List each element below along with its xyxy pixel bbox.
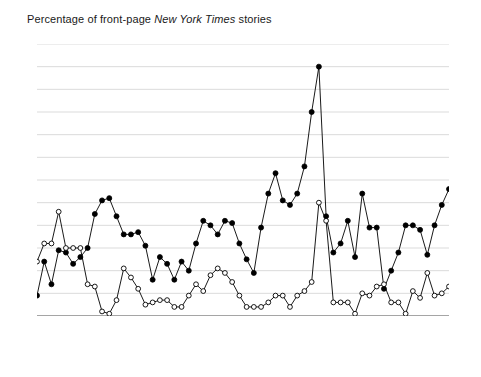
- data-point-president: [396, 250, 401, 255]
- data-point-president: [150, 277, 155, 282]
- plot-area: 0510152025303540455055601948195219561960…: [37, 44, 449, 316]
- data-point-congress: [251, 305, 256, 310]
- data-point-congress: [316, 200, 321, 205]
- data-point-president: [360, 191, 365, 196]
- data-point-congress: [42, 241, 47, 246]
- data-point-congress: [374, 284, 379, 289]
- data-point-president: [316, 64, 321, 69]
- data-point-president: [302, 164, 307, 169]
- data-point-congress: [353, 311, 358, 316]
- data-point-president: [222, 218, 227, 223]
- data-point-congress: [447, 284, 449, 289]
- data-point-president: [432, 223, 437, 228]
- data-point-congress: [64, 246, 69, 251]
- data-point-congress: [302, 289, 307, 294]
- data-point-congress: [186, 293, 191, 298]
- data-point-congress: [208, 273, 213, 278]
- data-point-congress: [309, 280, 314, 285]
- data-point-president: [49, 282, 54, 287]
- data-point-congress: [107, 311, 112, 316]
- series-line-president: [37, 67, 449, 296]
- data-point-congress: [288, 305, 293, 310]
- data-point-president: [194, 241, 199, 246]
- data-point-president: [418, 227, 423, 232]
- data-point-president: [266, 191, 271, 196]
- data-point-president: [201, 218, 206, 223]
- data-point-president: [215, 232, 220, 237]
- chart-title-italic: New York Times: [154, 13, 235, 25]
- data-point-congress: [143, 302, 148, 307]
- data-point-congress: [367, 293, 372, 298]
- data-point-congress: [150, 300, 155, 305]
- data-point-president: [287, 202, 292, 207]
- data-point-congress: [165, 298, 170, 303]
- data-point-president: [71, 261, 76, 266]
- chart-title-tail: stories: [235, 13, 271, 25]
- data-point-president: [295, 191, 300, 196]
- data-point-president: [353, 255, 358, 260]
- data-point-congress: [121, 266, 126, 271]
- data-point-president: [403, 223, 408, 228]
- data-point-congress: [280, 293, 285, 298]
- data-point-congress: [78, 246, 83, 251]
- data-point-congress: [244, 305, 249, 310]
- data-point-congress: [324, 218, 329, 223]
- chart-svg: 0510152025303540455055601948195219561960…: [37, 44, 449, 316]
- data-point-congress: [439, 291, 444, 296]
- data-point-president: [179, 259, 184, 264]
- data-point-congress: [71, 246, 76, 251]
- data-point-congress: [92, 284, 97, 289]
- data-point-president: [37, 293, 40, 298]
- data-point-president: [389, 268, 394, 273]
- data-point-president: [92, 212, 97, 217]
- data-point-congress: [259, 305, 264, 310]
- data-point-president: [85, 246, 90, 251]
- data-point-president: [114, 214, 119, 219]
- data-point-president: [230, 221, 235, 226]
- data-point-president: [136, 230, 141, 235]
- series-line-congress: [37, 203, 449, 314]
- data-point-congress: [382, 282, 387, 287]
- data-point-president: [410, 223, 415, 228]
- data-point-president: [128, 232, 133, 237]
- data-point-president: [172, 277, 177, 282]
- data-point-congress: [114, 298, 119, 303]
- data-point-president: [244, 257, 249, 262]
- data-point-congress: [49, 241, 54, 246]
- data-point-congress: [201, 289, 206, 294]
- chart-title: Percentage of front-page New York Times …: [27, 13, 272, 25]
- data-point-president: [345, 218, 350, 223]
- data-point-congress: [396, 300, 401, 305]
- data-point-congress: [85, 282, 90, 287]
- data-point-congress: [136, 286, 141, 291]
- data-point-president: [425, 252, 430, 257]
- data-point-congress: [410, 289, 415, 294]
- data-point-congress: [266, 300, 271, 305]
- data-point-president: [121, 232, 126, 237]
- data-point-congress: [273, 293, 278, 298]
- data-point-congress: [223, 271, 228, 276]
- data-point-president: [273, 171, 278, 176]
- data-point-congress: [56, 209, 61, 214]
- data-point-president: [237, 241, 242, 246]
- data-point-congress: [418, 295, 423, 300]
- data-point-congress: [345, 300, 350, 305]
- chart-title-plain: Percentage of front-page: [27, 13, 154, 25]
- data-point-congress: [331, 300, 336, 305]
- data-point-president: [100, 198, 105, 203]
- data-point-president: [42, 259, 47, 264]
- data-point-president: [208, 223, 213, 228]
- chart-page: Percentage of front-page New York Times …: [0, 0, 481, 377]
- data-point-congress: [172, 305, 177, 310]
- data-point-congress: [389, 300, 394, 305]
- data-point-president: [143, 243, 148, 248]
- data-point-president: [338, 241, 343, 246]
- data-point-congress: [37, 259, 39, 264]
- data-point-president: [107, 196, 112, 201]
- data-point-congress: [129, 275, 134, 280]
- data-point-congress: [295, 293, 300, 298]
- data-point-president: [309, 110, 314, 115]
- data-point-president: [367, 225, 372, 230]
- data-point-president: [447, 187, 450, 192]
- data-point-congress: [157, 298, 162, 303]
